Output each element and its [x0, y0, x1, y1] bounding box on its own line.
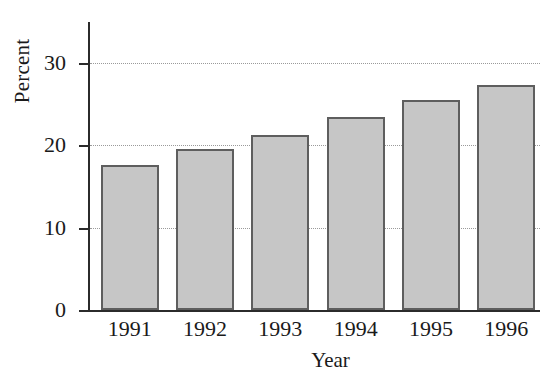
- y-tick-0: 0: [79, 310, 88, 312]
- x-tick-label-1994: 1994: [334, 318, 378, 340]
- x-tick-label-1995: 1995: [409, 318, 453, 340]
- bar-1993: [251, 135, 309, 310]
- y-tick-30: 30: [79, 63, 88, 65]
- x-tick-label-1996: 1996: [484, 318, 528, 340]
- y-tick-label-10: 10: [44, 216, 66, 238]
- y-tick-label-0: 0: [55, 299, 66, 321]
- plot-area: 0102030 199119921993199419951996: [88, 22, 540, 311]
- bar-1991: [101, 165, 159, 310]
- x-axis-title-text: Year: [311, 348, 350, 373]
- x-tick-label-1991: 1991: [108, 318, 152, 340]
- y-tick-label-20: 20: [44, 134, 66, 156]
- bar-1996: [477, 85, 535, 310]
- bar-series: [88, 22, 540, 310]
- x-tick-label-1993: 1993: [258, 318, 302, 340]
- bar-1992: [176, 149, 234, 310]
- y-tick-label-30: 30: [44, 52, 66, 74]
- y-tick-10: 10: [79, 228, 88, 230]
- bar-1994: [327, 117, 385, 310]
- y-tick-20: 20: [79, 145, 88, 147]
- bar-chart: Percent 0102030 199119921993199419951996…: [0, 0, 555, 382]
- x-tick-label-1992: 1992: [183, 318, 227, 340]
- x-axis-title: Year: [0, 348, 555, 373]
- y-axis-title: Percent: [10, 6, 36, 136]
- bar-1995: [402, 100, 460, 310]
- x-axis-line: [88, 310, 540, 312]
